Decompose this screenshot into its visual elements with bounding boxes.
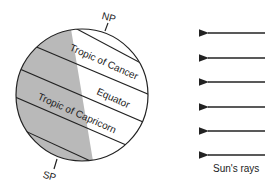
south-pole-label: SP	[42, 169, 58, 183]
sun-rays	[208, 33, 265, 155]
earth-sunlight-diagram: NP SP Tropic of Cancer Equator Tropic of…	[0, 0, 278, 187]
sun-rays-label: Sun's rays	[213, 163, 259, 174]
globe	[0, 0, 155, 187]
south-axis	[54, 159, 57, 169]
north-axis	[105, 23, 108, 31]
diagram-svg: NP SP Tropic of Cancer Equator Tropic of…	[0, 0, 278, 187]
north-pole-label: NP	[101, 10, 118, 24]
